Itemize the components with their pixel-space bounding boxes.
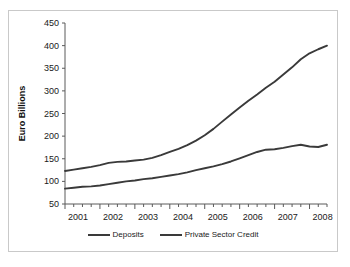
y-axis-tick-label: 150 <box>44 154 59 164</box>
series-line-deposits <box>65 145 327 189</box>
chart-figure: 50100150200250300350400450Euro Billions2… <box>8 10 338 252</box>
y-axis-tick-label: 350 <box>44 63 59 73</box>
x-axis-tick-label: 2001 <box>68 212 88 222</box>
y-axis-tick-label: 200 <box>44 131 59 141</box>
x-axis-tick-label: 2005 <box>208 212 228 222</box>
x-axis-tick-label: 2002 <box>103 212 123 222</box>
x-axis-tick-label: 2006 <box>243 212 263 222</box>
line-chart-plot: 50100150200250300350400450Euro Billions2… <box>9 11 337 251</box>
series-line-private-sector-credit <box>65 46 327 171</box>
y-axis-title: Euro Billions <box>17 86 27 142</box>
y-axis-tick-label: 400 <box>44 41 59 51</box>
y-axis-tick-label: 50 <box>49 199 59 209</box>
figure-title-fragment <box>0 0 350 8</box>
legend-item-private-sector-credit[interactable]: Private Sector Credit <box>160 230 259 239</box>
x-axis-tick-label: 2008 <box>313 212 333 222</box>
legend-label: Deposits <box>113 230 144 239</box>
legend-line-swatch-icon <box>160 234 182 236</box>
y-axis-tick-label: 100 <box>44 176 59 186</box>
y-axis-tick-label: 300 <box>44 86 59 96</box>
legend-label: Private Sector Credit <box>185 230 259 239</box>
x-axis-tick-label: 2003 <box>138 212 158 222</box>
x-axis-tick-label: 2004 <box>173 212 193 222</box>
x-axis-tick-label: 2007 <box>278 212 298 222</box>
legend-line-swatch-icon <box>88 234 110 236</box>
chart-legend: Deposits Private Sector Credit <box>9 230 337 239</box>
y-axis-tick-label: 450 <box>44 18 59 28</box>
y-axis-tick-label: 250 <box>44 109 59 119</box>
legend-item-deposits[interactable]: Deposits <box>88 230 144 239</box>
